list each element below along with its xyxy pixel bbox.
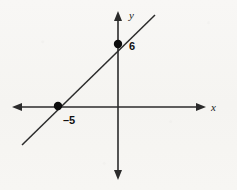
coordinate-plane-figure: y x 6 –5: [0, 0, 237, 190]
coordinate-plane-svg: y x 6 –5: [0, 0, 237, 190]
y-intercept-point: [114, 40, 122, 48]
x-axis-arrow-right-icon: [196, 103, 206, 111]
y-intercept-label: 6: [129, 40, 135, 52]
x-axis: [12, 103, 206, 111]
x-axis-label: x: [210, 101, 216, 113]
y-axis-label: y: [128, 9, 134, 21]
x-intercept-point: [54, 102, 62, 110]
x-intercept-label: –5: [63, 114, 75, 126]
y-axis-arrow-up-icon: [114, 11, 122, 21]
x-axis-arrow-left-icon: [12, 103, 22, 111]
y-axis-arrow-down-icon: [114, 170, 122, 180]
y-axis: [114, 11, 122, 180]
plotted-line: [22, 15, 155, 145]
